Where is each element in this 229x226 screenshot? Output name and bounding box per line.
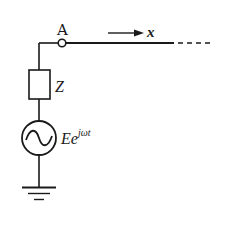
source-label-base: Ee [60, 130, 78, 147]
circuit-diagram: A x Z Eejωt [0, 0, 229, 226]
impedance-box [29, 70, 50, 99]
direction-x-label: x [146, 24, 155, 40]
node-a-label: A [56, 21, 68, 39]
impedance-label: Z [55, 78, 65, 95]
ground-icon [22, 188, 56, 200]
source-label: Eejωt [60, 127, 91, 147]
source-label-superscript: jωt [76, 127, 91, 138]
node-a-terminal [58, 39, 66, 47]
sine-wave-icon [26, 131, 52, 146]
direction-arrow-head [134, 30, 144, 37]
